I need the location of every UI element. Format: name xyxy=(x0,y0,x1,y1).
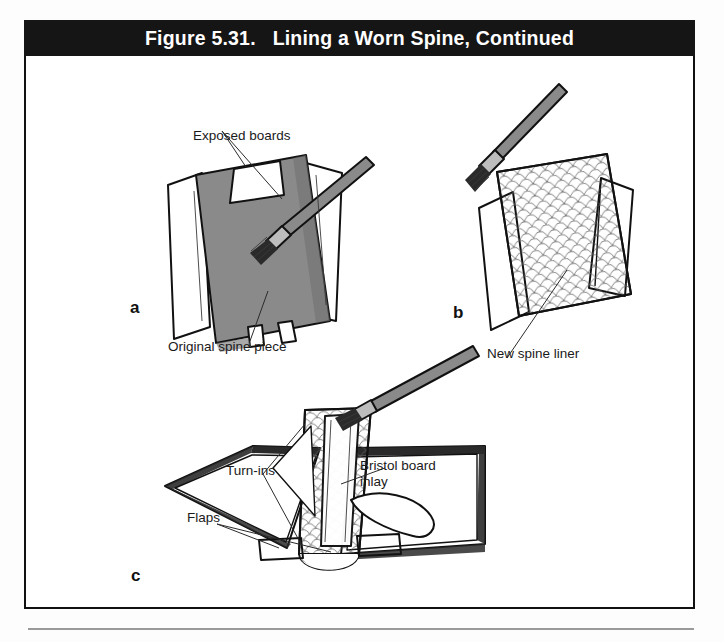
page-bottom-rule xyxy=(28,628,694,630)
label-bristol-board-inlay: Bristol board inlay xyxy=(360,458,436,489)
panel-c-artwork xyxy=(155,368,495,598)
label-exposed-boards: Exposed boards xyxy=(193,128,291,144)
figure-title: Figure 5.31. Lining a Worn Spine, Contin… xyxy=(145,27,574,50)
panel-b-artwork xyxy=(455,80,685,350)
label-new-spine-liner: New spine liner xyxy=(487,346,579,362)
figure-page: Figure 5.31. Lining a Worn Spine, Contin… xyxy=(0,0,724,642)
figure-title-bar: Figure 5.31. Lining a Worn Spine, Contin… xyxy=(24,20,695,56)
panel-letter-b: b xyxy=(453,303,463,323)
label-original-spine-piece: Original spine piece xyxy=(168,339,287,355)
label-flaps: Flaps xyxy=(187,510,220,526)
panel-letter-a: a xyxy=(130,298,139,318)
panel-letter-c: c xyxy=(131,566,140,586)
label-turn-ins: Turn-ins xyxy=(226,463,275,479)
